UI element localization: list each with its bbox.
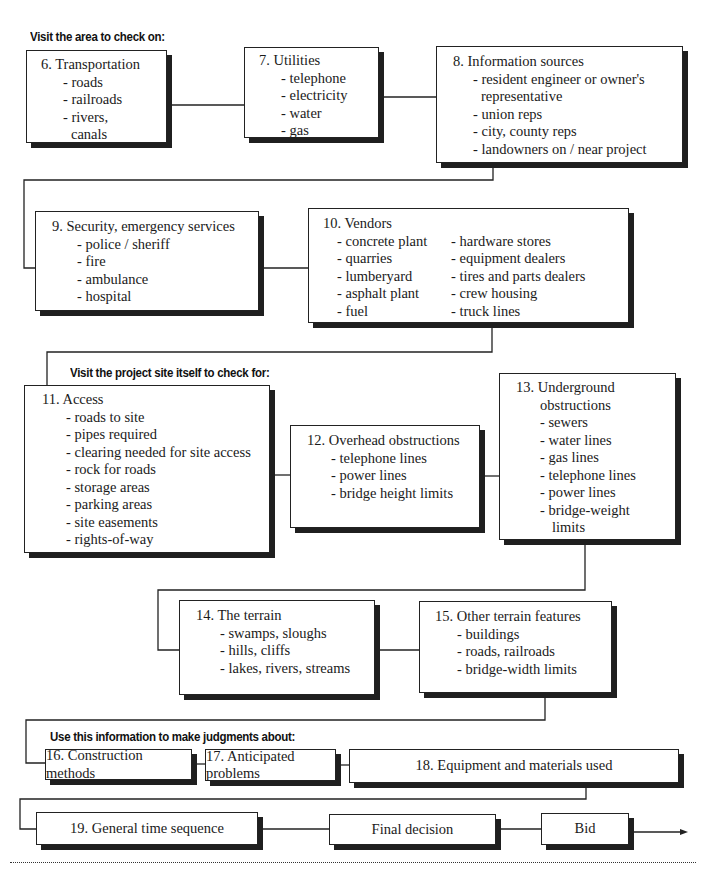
list-item: - ambulance xyxy=(77,271,258,289)
box-title-continued: obstructions xyxy=(516,397,675,415)
list-item: - hospital xyxy=(77,288,258,306)
list-item: - hills, cliffs xyxy=(220,642,374,660)
box-title: 8. Information sources xyxy=(453,53,682,71)
box-equipment-materials: 18. Equipment and materials used xyxy=(349,749,679,783)
list-item: - police / sheriff xyxy=(77,236,258,254)
list-item: limits xyxy=(540,519,675,537)
box-other-terrain-features: 15. Other terrain features - buildings -… xyxy=(419,601,612,693)
list-item: - bridge height limits xyxy=(331,485,479,503)
list-item: - quarries xyxy=(337,250,451,268)
list-item: - water xyxy=(281,105,378,123)
list-item: - union reps xyxy=(473,106,682,124)
list-item: - roads, railroads xyxy=(457,643,611,661)
list-item: - swamps, sloughs xyxy=(220,625,374,643)
box-title: 14. The terrain xyxy=(196,607,374,625)
box-title: 17. Anticipated problems xyxy=(206,748,335,783)
list-item: - rivers, xyxy=(63,109,166,127)
box-title: 19. General time sequence xyxy=(70,820,224,838)
list-item: - railroads xyxy=(63,91,166,109)
box-anticipated-problems: 17. Anticipated problems xyxy=(205,749,336,781)
box-terrain: 14. The terrain - swamps, sloughs - hill… xyxy=(179,600,375,695)
area-heading: Visit the area to check on: xyxy=(30,30,165,44)
list-item: - telephone xyxy=(281,70,378,88)
list-item: - city, county reps xyxy=(473,123,682,141)
box-final-decision: Final decision xyxy=(329,814,496,845)
list-item: representative xyxy=(473,88,682,106)
list-item: - power lines xyxy=(540,484,675,502)
list-item: - electricity xyxy=(281,87,378,105)
box-general-time-sequence: 19. General time sequence xyxy=(36,812,258,845)
list-item: - telephone lines xyxy=(540,467,675,485)
box-information-sources: 8. Information sources - resident engine… xyxy=(436,46,683,163)
list-item: - bridge-width limits xyxy=(457,661,611,679)
box-title: 10. Vendors xyxy=(323,215,628,233)
list-item: - fire xyxy=(77,253,258,271)
box-title: 18. Equipment and materials used xyxy=(416,757,613,775)
dotted-divider xyxy=(10,862,696,863)
list-item: - rock for roads xyxy=(66,461,269,479)
list-item: - sewers xyxy=(540,414,675,432)
list-item: - lumberyard xyxy=(337,268,451,286)
list-item: - resident engineer or owner's xyxy=(473,71,682,89)
list-item: - tires and parts dealers xyxy=(451,268,585,286)
list-item: - roads xyxy=(63,74,166,92)
list-item: - fuel xyxy=(337,303,451,321)
box-title: Bid xyxy=(575,820,596,838)
box-title: 11. Access xyxy=(42,391,269,409)
box-vendors: 10. Vendors - concrete plant - quarries … xyxy=(308,208,629,323)
box-underground-obstructions: 13. Underground obstructions - sewers - … xyxy=(499,373,676,540)
box-title: 6. Transportation xyxy=(41,56,166,74)
list-item: - telephone lines xyxy=(331,450,479,468)
arrow-head-icon xyxy=(680,829,688,835)
box-title: 9. Security, emergency services xyxy=(52,218,258,236)
box-overhead-obstructions: 12. Overhead obstructions - telephone li… xyxy=(290,425,480,528)
list-item: - power lines xyxy=(331,467,479,485)
list-item: - rights-of-way xyxy=(66,531,269,549)
list-item: - hardware stores xyxy=(451,233,585,251)
list-item: - buildings xyxy=(457,626,611,644)
list-item: - parking areas xyxy=(66,496,269,514)
list-item: - roads to site xyxy=(66,409,269,427)
list-item: - water lines xyxy=(540,432,675,450)
list-item: - clearing needed for site access xyxy=(66,444,269,462)
box-transportation: 6. Transportation - roads - railroads - … xyxy=(26,50,167,143)
box-title: Final decision xyxy=(372,821,454,839)
list-item: - equipment dealers xyxy=(451,250,585,268)
box-title: 12. Overhead obstructions xyxy=(307,432,479,450)
list-item: - gas lines xyxy=(540,449,675,467)
box-security-emergency: 9. Security, emergency services - police… xyxy=(35,211,259,311)
box-construction-methods: 16. Construction methods xyxy=(45,749,192,780)
list-item: - bridge-weight xyxy=(540,502,675,520)
list-item: - landowners on / near project xyxy=(473,141,682,159)
box-access: 11. Access - roads to site - pipes requi… xyxy=(24,385,270,553)
list-item: - site easements xyxy=(66,514,269,532)
list-item: - concrete plant xyxy=(337,233,451,251)
list-item: canals xyxy=(63,126,166,144)
box-title: 13. Underground xyxy=(516,379,675,397)
list-item: - crew housing xyxy=(451,285,585,303)
site-heading: Visit the project site itself to check f… xyxy=(70,366,269,380)
list-item: - pipes required xyxy=(66,426,269,444)
box-bid: Bid xyxy=(541,813,629,845)
box-utilities: 7. Utilities - telephone - electricity -… xyxy=(244,47,379,138)
list-item: - gas xyxy=(281,122,378,140)
judgment-heading: Use this information to make judgments a… xyxy=(50,730,295,744)
list-item: - lakes, rivers, streams xyxy=(220,660,374,678)
list-item: - storage areas xyxy=(66,479,269,497)
list-item: - asphalt plant xyxy=(337,285,451,303)
box-title: 7. Utilities xyxy=(259,52,378,70)
box-title: 16. Construction methods xyxy=(46,747,191,782)
list-item: - truck lines xyxy=(451,303,585,321)
box-title: 15. Other terrain features xyxy=(435,608,611,626)
